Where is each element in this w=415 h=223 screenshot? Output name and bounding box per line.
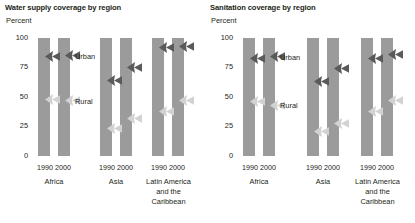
xgroup-label-water-asia: Asia	[96, 177, 136, 186]
marker-urban-water-asia-2000	[126, 61, 143, 74]
marker-urban-water-africa-1990	[44, 50, 61, 63]
chart-page: Water supply coverage by region Percent …	[0, 0, 415, 223]
ytick-0-sanitation: 0	[211, 152, 233, 160]
bar-water-asia-1990	[100, 38, 112, 156]
xgroup-label-water-lac-line2: and the	[138, 187, 199, 196]
ytick-75-sanitation: 75	[211, 63, 233, 71]
ytick-25-sanitation: 25	[211, 122, 233, 130]
marker-urban-sanitation-asia-2000	[333, 62, 350, 75]
xgroup-label-water-lac-line3: Caribbean	[138, 197, 199, 206]
marker-urban-water-asia-1990	[106, 74, 123, 87]
bar-water-lac-1990	[152, 38, 164, 156]
xtick-years-water-africa: 1990 2000	[37, 163, 71, 172]
xtick-years-water-asia: 1990 2000	[99, 163, 133, 172]
annotation-urban-water: Urban	[75, 53, 95, 61]
panel-water-supply: Water supply coverage by region Percent …	[0, 0, 205, 223]
plot-area-water: 100 75 50 25 0	[0, 0, 205, 223]
bar-sanitation-asia-2000	[327, 38, 339, 156]
bar-water-asia-2000	[120, 38, 132, 156]
marker-rural-water-africa-1990	[44, 93, 61, 106]
marker-rural-sanitation-asia-1990	[313, 125, 330, 138]
marker-urban-sanitation-lac-1990	[367, 52, 384, 65]
ytick-50-sanitation: 50	[211, 93, 233, 101]
xgroup-label-water-lac-line1: Latin America	[138, 177, 199, 186]
xtick-years-water-lac: 1990 2000	[151, 163, 185, 172]
marker-rural-water-lac-2000	[178, 94, 195, 107]
bar-sanitation-asia-1990	[307, 38, 319, 156]
plot-area-sanitation: 100 75 50 25 0	[205, 0, 415, 223]
annotation-rural-sanitation: Rural	[280, 102, 298, 110]
ytick-100-sanitation: 100	[211, 34, 233, 42]
annotation-rural-water: Rural	[75, 98, 93, 106]
ytick-0-water: 0	[6, 152, 28, 160]
marker-urban-water-lac-2000	[178, 40, 195, 53]
xgroup-label-sanitation-lac-line2: and the	[347, 187, 408, 196]
xgroup-label-sanitation-lac-line1: Latin America	[347, 177, 408, 186]
marker-rural-sanitation-asia-2000	[333, 117, 350, 130]
ytick-75-water: 75	[6, 63, 28, 71]
annotation-urban-sanitation: Urban	[280, 54, 300, 62]
panel-sanitation: Sanitation coverage by region Percent 10…	[205, 0, 415, 223]
xtick-years-sanitation-africa: 1990 2000	[242, 163, 276, 172]
marker-rural-water-lac-1990	[158, 105, 175, 118]
ytick-25-water: 25	[6, 122, 28, 130]
xtick-years-sanitation-asia: 1990 2000	[306, 163, 340, 172]
ytick-100-water: 100	[6, 34, 28, 42]
xgroup-label-sanitation-africa: Africa	[239, 177, 279, 186]
xgroup-label-sanitation-asia: Asia	[303, 177, 343, 186]
marker-urban-water-lac-1990	[158, 41, 175, 54]
marker-rural-sanitation-lac-1990	[367, 105, 384, 118]
xgroup-label-water-africa: Africa	[34, 177, 74, 186]
xgroup-label-sanitation-lac-line3: Caribbean	[347, 197, 408, 206]
marker-rural-water-asia-2000	[126, 112, 143, 125]
marker-urban-sanitation-asia-1990	[313, 75, 330, 88]
marker-rural-sanitation-africa-1990	[249, 95, 266, 108]
ytick-50-water: 50	[6, 93, 28, 101]
xtick-years-sanitation-lac: 1990 2000	[360, 163, 394, 172]
marker-urban-sanitation-africa-1990	[249, 52, 266, 65]
marker-urban-sanitation-lac-2000	[387, 48, 404, 61]
marker-rural-water-asia-1990	[106, 122, 123, 135]
marker-rural-sanitation-lac-2000	[387, 94, 404, 107]
